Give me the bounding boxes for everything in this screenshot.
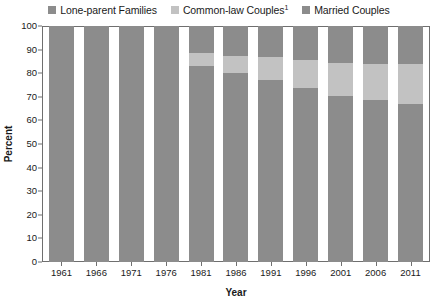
x-tick-label: 2011 [400,268,420,278]
y-axis-title: Percent [3,109,14,179]
bar-segment [119,46,144,262]
bar-segment [223,56,248,73]
x-tick-mark [306,262,307,266]
bar-segment [154,26,179,48]
legend-label: Married Couples [314,4,390,16]
y-tick-label: 100 [21,21,37,31]
bar-segment [223,26,248,56]
legend-label: Lone-parent Families [60,4,157,16]
stacked-bar-chart: Lone-parent FamiliesCommon-law Couples1M… [0,0,438,305]
legend-item: Lone-parent Families [48,4,157,16]
bar-segment [223,73,248,262]
x-tick: 2001 [328,262,353,284]
bar-segment [49,26,74,46]
x-tick-group: 1961196619711976198119861991199620012006… [42,262,430,284]
x-tick-mark [201,262,202,266]
y-axis: Percent 1009080706050403020100 [0,26,42,262]
bar-1966 [84,26,109,262]
x-tick-mark [131,262,132,266]
legend-swatch-common-law [171,6,179,14]
x-tick: 1966 [84,262,109,284]
x-tick-mark [271,262,272,266]
chart-legend: Lone-parent FamiliesCommon-law Couples1M… [0,2,438,18]
bar-segment [84,26,109,46]
x-tick: 2011 [398,262,423,284]
bar-1961 [49,26,74,262]
x-tick: 1986 [223,262,248,284]
bar-segment [49,46,74,262]
x-tick-label: 1996 [295,268,316,278]
legend-label: Common-law Couples1 [183,4,288,16]
bar-1996 [293,26,318,262]
x-tick: 1971 [119,262,144,284]
bar-segment [398,104,423,262]
bar-1976 [154,26,179,262]
x-tick-label: 2001 [330,268,351,278]
x-tick-mark [96,262,97,266]
plot-area [42,26,430,262]
bar-segment [154,48,179,262]
x-tick: 1981 [189,262,214,284]
bar-segment [363,100,388,262]
bar-group [42,26,430,262]
bar-segment [258,57,283,80]
bar-segment [119,26,144,46]
bar-segment [363,26,388,64]
bar-segment [189,53,214,66]
x-tick: 1976 [154,262,179,284]
bar-1981 [189,26,214,262]
x-tick-label: 1966 [86,268,107,278]
x-tick: 1991 [258,262,283,284]
bar-segment [189,26,214,53]
x-tick-label: 1976 [156,268,177,278]
x-tick: 1961 [49,262,74,284]
bar-segment [398,64,423,103]
bar-segment [293,88,318,262]
x-tick-label: 1991 [260,268,281,278]
legend-item: Married Couples [302,4,390,16]
y-tick-label: 30 [26,186,37,196]
bar-1971 [119,26,144,262]
bar-segment [258,26,283,57]
y-tick-label: 50 [26,139,37,149]
bar-1991 [258,26,283,262]
legend-footnote-marker: 1 [284,4,288,11]
bar-segment [363,64,388,101]
y-tick-label: 80 [26,68,37,78]
x-tick: 1996 [293,262,318,284]
bar-segment [84,46,109,262]
bar-2006 [363,26,388,262]
y-tick-label: 20 [26,210,37,220]
x-tick-label: 1971 [121,268,142,278]
y-tick-label: 90 [26,45,37,55]
x-tick-mark [61,262,62,266]
bar-2001 [328,26,353,262]
x-tick-label: 1981 [191,268,212,278]
y-tick-label: 10 [26,234,37,244]
x-axis: 1961196619711976198119861991199620012006… [42,262,430,284]
x-tick-label: 2006 [365,268,386,278]
bar-segment [398,26,423,64]
y-tick-label: 60 [26,116,37,126]
x-tick-mark [236,262,237,266]
x-tick-mark [341,262,342,266]
bar-segment [293,60,318,88]
y-tick-label: 40 [26,163,37,173]
x-tick: 2006 [363,262,388,284]
x-axis-title: Year [42,287,430,298]
bar-2011 [398,26,423,262]
bar-segment [328,26,353,63]
x-tick-mark [376,262,377,266]
x-tick-label: 1961 [51,268,72,278]
legend-swatch-lone-parent [48,6,56,14]
y-tick-label: 70 [26,92,37,102]
x-tick-mark [166,262,167,266]
x-tick-label: 1986 [225,268,246,278]
bar-segment [293,26,318,60]
y-tick-label: 0 [32,257,37,267]
bar-segment [328,96,353,262]
legend-swatch-married [302,6,310,14]
legend-item: Common-law Couples1 [171,4,288,16]
bar-segment [328,63,353,96]
x-tick-mark [411,262,412,266]
